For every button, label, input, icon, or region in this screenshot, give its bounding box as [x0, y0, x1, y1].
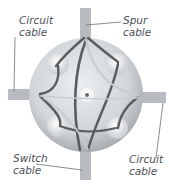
label-line: cable	[129, 165, 157, 177]
label-line: cable	[13, 164, 41, 176]
label-line: cable	[19, 26, 47, 38]
label-line: Switch	[13, 152, 48, 164]
label-circuit-cable-bottom-right: Circuitcable	[129, 153, 163, 177]
label-line: cable	[123, 26, 151, 38]
label-line: Circuit	[129, 153, 163, 165]
label-circuit-cable-top-left: Circuitcable	[19, 14, 53, 38]
label-switch-cable: Switchcable	[13, 152, 48, 176]
label-spur-cable: Spurcable	[123, 14, 151, 38]
label-line: Circuit	[19, 14, 53, 26]
label-line: Spur	[123, 14, 147, 26]
